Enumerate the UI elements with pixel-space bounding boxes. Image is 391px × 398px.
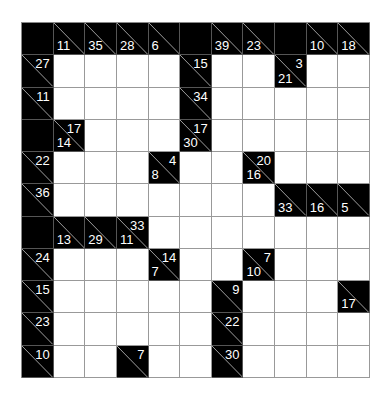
clue-cell: 10	[22, 346, 54, 378]
entry-cell[interactable]	[275, 313, 307, 345]
entry-cell[interactable]	[307, 281, 339, 313]
across-clue: 11	[36, 90, 50, 103]
entry-cell[interactable]	[212, 184, 244, 216]
entry-cell[interactable]	[117, 55, 149, 87]
entry-cell[interactable]	[275, 281, 307, 313]
entry-cell[interactable]	[338, 55, 370, 87]
entry-cell[interactable]	[85, 313, 117, 345]
entry-cell[interactable]	[307, 120, 339, 152]
entry-cell[interactable]	[212, 55, 244, 87]
entry-cell[interactable]	[54, 346, 86, 378]
entry-cell[interactable]	[54, 313, 86, 345]
entry-cell[interactable]	[149, 313, 181, 345]
entry-cell[interactable]	[54, 184, 86, 216]
entry-cell[interactable]	[243, 184, 275, 216]
clue-cell: 11	[22, 88, 54, 120]
entry-cell[interactable]	[338, 249, 370, 281]
entry-cell[interactable]	[243, 346, 275, 378]
entry-cell[interactable]	[149, 346, 181, 378]
entry-cell[interactable]	[307, 152, 339, 184]
entry-cell[interactable]	[338, 88, 370, 120]
entry-cell[interactable]	[149, 217, 181, 249]
entry-cell[interactable]	[117, 120, 149, 152]
entry-cell[interactable]	[149, 281, 181, 313]
entry-cell[interactable]	[338, 217, 370, 249]
clue-cell: 147	[149, 249, 181, 281]
entry-cell[interactable]	[54, 281, 86, 313]
entry-cell[interactable]	[275, 88, 307, 120]
entry-cell[interactable]	[180, 249, 212, 281]
entry-cell[interactable]	[117, 281, 149, 313]
clue-cell: 321	[275, 55, 307, 87]
clue-cell: 2016	[243, 152, 275, 184]
across-clue: 9	[232, 283, 239, 296]
clue-cell: 15	[22, 281, 54, 313]
entry-cell[interactable]	[149, 184, 181, 216]
entry-cell[interactable]	[54, 88, 86, 120]
entry-cell[interactable]	[212, 120, 244, 152]
entry-cell[interactable]	[117, 313, 149, 345]
entry-cell[interactable]	[307, 249, 339, 281]
entry-cell[interactable]	[338, 346, 370, 378]
across-clue: 17	[67, 122, 81, 135]
entry-cell[interactable]	[275, 217, 307, 249]
entry-cell[interactable]	[243, 313, 275, 345]
block-cell	[22, 120, 54, 152]
entry-cell[interactable]	[54, 55, 86, 87]
entry-cell[interactable]	[307, 88, 339, 120]
entry-cell[interactable]	[307, 313, 339, 345]
entry-cell[interactable]	[149, 88, 181, 120]
entry-cell[interactable]	[180, 313, 212, 345]
entry-cell[interactable]	[180, 281, 212, 313]
entry-cell[interactable]	[307, 217, 339, 249]
entry-cell[interactable]	[85, 152, 117, 184]
entry-cell[interactable]	[338, 120, 370, 152]
down-clue: 13	[57, 233, 71, 246]
entry-cell[interactable]	[85, 55, 117, 87]
entry-cell[interactable]	[212, 152, 244, 184]
entry-cell[interactable]	[338, 313, 370, 345]
entry-cell[interactable]	[212, 88, 244, 120]
clue-cell: 34	[180, 88, 212, 120]
entry-cell[interactable]	[54, 152, 86, 184]
entry-cell[interactable]	[54, 249, 86, 281]
entry-cell[interactable]	[307, 55, 339, 87]
entry-cell[interactable]	[275, 249, 307, 281]
entry-cell[interactable]	[85, 184, 117, 216]
entry-cell[interactable]	[149, 120, 181, 152]
entry-cell[interactable]	[180, 184, 212, 216]
entry-cell[interactable]	[85, 346, 117, 378]
clue-cell: 23	[22, 313, 54, 345]
entry-cell[interactable]	[85, 249, 117, 281]
entry-cell[interactable]	[180, 346, 212, 378]
across-clue: 33	[130, 219, 144, 232]
entry-cell[interactable]	[275, 346, 307, 378]
across-clue: 7	[264, 251, 271, 264]
entry-cell[interactable]	[243, 281, 275, 313]
entry-cell[interactable]	[243, 88, 275, 120]
entry-cell[interactable]	[212, 217, 244, 249]
entry-cell[interactable]	[85, 281, 117, 313]
entry-cell[interactable]	[85, 88, 117, 120]
entry-cell[interactable]	[243, 120, 275, 152]
entry-cell[interactable]	[307, 346, 339, 378]
across-clue: 27	[35, 57, 49, 70]
clue-cell: 5	[338, 184, 370, 216]
entry-cell[interactable]	[117, 184, 149, 216]
entry-cell[interactable]	[117, 249, 149, 281]
entry-cell[interactable]	[117, 152, 149, 184]
entry-cell[interactable]	[338, 152, 370, 184]
entry-cell[interactable]	[117, 88, 149, 120]
down-clue: 28	[120, 39, 134, 52]
entry-cell[interactable]	[180, 152, 212, 184]
entry-cell[interactable]	[212, 249, 244, 281]
entry-cell[interactable]	[85, 120, 117, 152]
clue-cell: 1714	[54, 120, 86, 152]
entry-cell[interactable]	[275, 120, 307, 152]
entry-cell[interactable]	[243, 55, 275, 87]
entry-cell[interactable]	[149, 55, 181, 87]
entry-cell[interactable]	[275, 152, 307, 184]
clue-cell: 39	[212, 23, 244, 55]
entry-cell[interactable]	[243, 217, 275, 249]
entry-cell[interactable]	[180, 217, 212, 249]
